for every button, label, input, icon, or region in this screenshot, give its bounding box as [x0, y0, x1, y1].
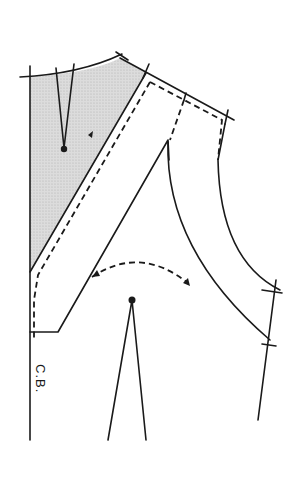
center-back-label: C.B. — [33, 364, 48, 393]
tick-mark — [262, 344, 276, 346]
fold-guide-dashed — [92, 262, 188, 283]
armhole-curve — [218, 124, 280, 290]
shaded-back-piece — [30, 58, 146, 272]
tick-mark — [262, 290, 282, 293]
pattern-diagram — [0, 0, 303, 479]
side-seam — [258, 280, 276, 420]
waist-dart-point-dot — [129, 297, 136, 304]
tick-mark — [184, 93, 186, 100]
waist-dart — [108, 300, 146, 440]
dart-dashed-guide — [170, 100, 184, 140]
arrow-right — [183, 278, 190, 286]
dart-point-dot — [61, 146, 67, 152]
